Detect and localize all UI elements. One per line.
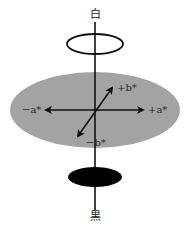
black-disk — [68, 167, 122, 187]
white-label: 白 — [90, 7, 101, 21]
minus-a-label: −a* — [22, 104, 41, 115]
black-label: 黒 — [90, 210, 101, 223]
minus-b-label: −b* — [86, 137, 106, 148]
plus-a-label: +a* — [148, 104, 167, 115]
plus-b-label: +b* — [117, 82, 137, 93]
lab-color-space-diagram: 白 黒 −a* +a* +b* −b* — [0, 0, 185, 227]
